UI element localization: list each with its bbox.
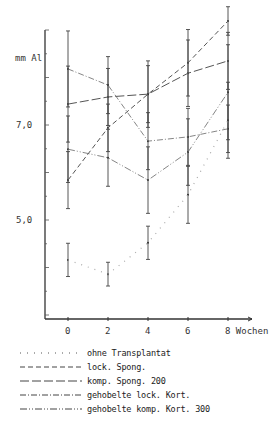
legend-line-swatch xyxy=(20,348,82,358)
legend-label: gehobelte komp. Kort. 300 xyxy=(87,404,210,414)
legend-label: komp. Spong. 200 xyxy=(87,376,166,386)
x-tick-label-4: 4 xyxy=(145,326,150,336)
error-bar xyxy=(146,147,150,214)
legend-item: komp. Spong. 200 xyxy=(20,374,260,388)
x-tick-label-6: 6 xyxy=(185,326,190,336)
error-bar xyxy=(146,226,150,259)
legend-line-swatch xyxy=(20,376,82,386)
legend: ohne Transplantat lock. Spong. komp. Spo… xyxy=(20,346,260,416)
legend-item: gehobelte lock. Kort. xyxy=(20,388,260,402)
legend-line-swatch xyxy=(20,362,82,372)
y-axis: mm Al 7,0 5,0 xyxy=(15,30,49,319)
legend-label: lock. Spong. xyxy=(87,362,146,372)
legend-line-swatch xyxy=(20,404,82,414)
legend-line-swatch xyxy=(20,390,82,400)
error-bar xyxy=(226,7,230,35)
y-axis-unit-label: mm Al xyxy=(15,53,42,63)
x-axis: 0 2 4 6 8 Wochen xyxy=(45,317,268,336)
legend-label: gehobelte lock. Kort. xyxy=(87,390,190,400)
y-tick-label-7: 7,0 xyxy=(16,120,32,130)
legend-item: ohne Transplantat xyxy=(20,346,260,360)
legend-item: gehobelte komp. Kort. 300 xyxy=(20,402,260,416)
legend-item: lock. Spong. xyxy=(20,360,260,374)
error-bar xyxy=(106,57,110,114)
x-tick-label-2: 2 xyxy=(105,326,110,336)
y-tick-label-5: 5,0 xyxy=(16,215,32,225)
x-tick-label-0: 0 xyxy=(65,326,70,336)
x-tick-label-8: 8 Wochen xyxy=(225,326,268,336)
line-chart: mm Al 7,0 5,0 0 2 4 6 8 Wochen xyxy=(0,0,273,340)
plot-area xyxy=(66,7,230,286)
legend-label: ohne Transplantat xyxy=(87,348,171,358)
